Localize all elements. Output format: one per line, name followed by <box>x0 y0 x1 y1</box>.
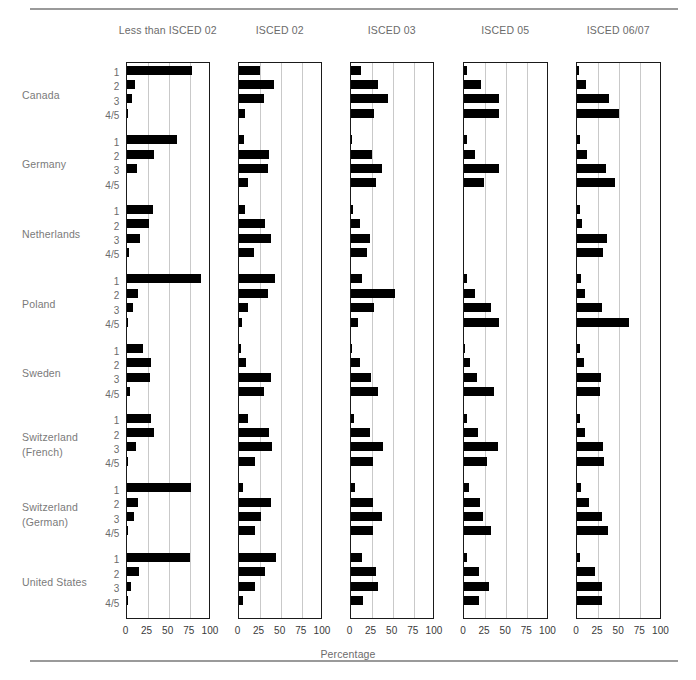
row-tick-7-2: 2 <box>98 499 120 510</box>
row-tick-8-1: 1 <box>98 554 120 565</box>
bar-p2-g2-r2 <box>239 150 269 159</box>
row-tick-7-1: 1 <box>98 485 120 496</box>
bar-p3-g5-r2 <box>351 358 360 367</box>
bar-p4-g2-r2 <box>464 150 475 159</box>
bar-p5-g3-r2 <box>577 219 582 228</box>
panel-2-plot <box>238 62 323 619</box>
bar-p2-g3-r1 <box>239 205 246 214</box>
row-tick-5-2: 2 <box>98 360 120 371</box>
x-tick-p4-100: 100 <box>536 625 560 636</box>
row-tick-5-4: 4/5 <box>98 389 120 400</box>
bar-p5-g7-r4 <box>577 526 608 535</box>
bar-p4-g8-r4 <box>464 596 479 605</box>
row-tick-2-2: 2 <box>98 151 120 162</box>
bar-p2-g5-r1 <box>239 344 242 353</box>
bar-p2-g6-r4 <box>239 457 255 466</box>
bar-p5-g6-r4 <box>577 457 604 466</box>
bar-p4-g2-r1 <box>464 135 467 144</box>
bar-p5-g1-r3 <box>577 94 609 103</box>
bar-p2-g2-r4 <box>239 178 248 187</box>
bar-p4-g1-r4 <box>464 109 499 118</box>
bar-p1-g8-r1 <box>127 553 190 562</box>
panel-3-plot <box>350 62 435 619</box>
x-tick-p3-100: 100 <box>422 625 446 636</box>
bar-p3-g4-r2 <box>351 289 396 298</box>
country-label-3: Netherlands <box>22 228 80 240</box>
bar-p3-g4-r3 <box>351 303 375 312</box>
bar-p3-g8-r1 <box>351 553 363 562</box>
row-tick-3-2: 2 <box>98 221 120 232</box>
bar-p1-g3-r2 <box>127 219 150 228</box>
country-label-8: United States <box>22 576 87 588</box>
bar-p4-g5-r1 <box>464 344 465 353</box>
bar-p5-g3-r3 <box>577 234 607 243</box>
bar-p1-g6-r4 <box>127 457 128 466</box>
country-label-1: Canada <box>22 89 60 101</box>
bar-p1-g2-r2 <box>127 150 154 159</box>
bar-p5-g2-r2 <box>577 150 587 159</box>
bar-p3-g7-r3 <box>351 512 382 521</box>
bar-p4-g5-r4 <box>464 387 494 396</box>
bar-p5-g1-r2 <box>577 80 586 89</box>
bar-p3-g1-r4 <box>351 109 375 118</box>
country-label-5: Sweden <box>22 367 61 379</box>
row-tick-1-1: 1 <box>98 67 120 78</box>
row-tick-1-2: 2 <box>98 81 120 92</box>
plot-area: Canada1234/5Germany1234/5Netherlands1234… <box>0 0 696 680</box>
bar-p1-g8-r4 <box>127 596 128 605</box>
bar-p5-g2-r4 <box>577 178 615 187</box>
bar-p3-g8-r3 <box>351 582 378 591</box>
bar-p2-g6-r2 <box>239 428 269 437</box>
bar-p2-g8-r4 <box>239 596 243 605</box>
row-tick-6-3: 3 <box>98 444 120 455</box>
bar-p5-g8-r3 <box>577 582 602 591</box>
bar-p1-g7-r1 <box>127 483 191 492</box>
bar-p2-g6-r3 <box>239 442 273 451</box>
row-tick-1-3: 3 <box>98 96 120 107</box>
bar-p4-g1-r3 <box>464 94 499 103</box>
row-tick-3-3: 3 <box>98 235 120 246</box>
bar-p5-g1-r1 <box>577 66 579 75</box>
bar-p1-g3-r4 <box>127 248 130 257</box>
bar-p4-g4-r3 <box>464 303 491 312</box>
bar-p3-g4-r4 <box>351 318 359 327</box>
bar-p3-g5-r3 <box>351 373 371 382</box>
row-tick-5-3: 3 <box>98 374 120 385</box>
gridline-50 <box>169 63 170 618</box>
row-tick-4-3: 3 <box>98 305 120 316</box>
bar-p1-g1-r4 <box>127 109 128 118</box>
bar-p1-g4-r2 <box>127 289 139 298</box>
bar-p1-g7-r3 <box>127 512 135 521</box>
bar-p2-g3-r2 <box>239 219 265 228</box>
bar-p1-g2-r1 <box>127 135 178 144</box>
gridline-75 <box>302 63 303 618</box>
row-tick-3-4: 4/5 <box>98 249 120 260</box>
bar-p2-g1-r4 <box>239 109 246 118</box>
bar-p1-g6-r2 <box>127 428 155 437</box>
bar-p3-g8-r4 <box>351 596 364 605</box>
gridline-25 <box>260 63 261 618</box>
bar-p5-g3-r1 <box>577 205 580 214</box>
bar-p1-g1-r2 <box>127 80 135 89</box>
country-label-7: Switzerland(German) <box>22 500 78 530</box>
panel-5-plot <box>576 62 661 619</box>
gridline-75 <box>527 63 528 618</box>
bar-p1-g5-r2 <box>127 358 152 367</box>
country-label-6: Switzerland(French) <box>22 430 78 460</box>
bar-p4-g6-r4 <box>464 457 487 466</box>
x-tick-p2-100: 100 <box>310 625 334 636</box>
bar-p1-g3-r1 <box>127 205 153 214</box>
bar-p2-g8-r1 <box>239 553 276 562</box>
bar-p5-g2-r1 <box>577 135 580 144</box>
bar-p2-g4-r1 <box>239 274 275 283</box>
bar-p1-g8-r2 <box>127 567 140 576</box>
bar-p3-g3-r3 <box>351 234 370 243</box>
bar-p2-g4-r3 <box>239 303 248 312</box>
panel-1-plot <box>126 62 211 619</box>
gridline-75 <box>190 63 191 618</box>
bar-p4-g8-r1 <box>464 553 467 562</box>
x-tick-p5-100: 100 <box>649 625 673 636</box>
bar-p5-g4-r4 <box>577 318 629 327</box>
bar-p1-g3-r3 <box>127 234 141 243</box>
bar-p3-g3-r4 <box>351 248 368 257</box>
